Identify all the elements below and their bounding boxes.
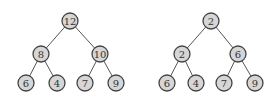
node-label: 4 <box>193 78 199 89</box>
tree-node: 7 <box>77 75 93 91</box>
node-label: 2 <box>208 16 214 27</box>
tree-node: 8 <box>33 46 49 62</box>
node-label: 9 <box>113 78 119 89</box>
tree-node: 2 <box>203 13 219 29</box>
node-label: 8 <box>38 49 44 60</box>
node-label: 2 <box>179 49 185 60</box>
tree-node: 12 <box>62 13 78 29</box>
node-label: 10 <box>94 49 107 60</box>
left-tree: 128106479 <box>18 13 124 91</box>
binary-trees-diagram: 1281064792266479 <box>0 0 276 103</box>
tree-node: 2 <box>174 46 190 62</box>
tree-node: 10 <box>92 46 108 62</box>
tree-node: 7 <box>216 75 232 91</box>
node-label: 9 <box>252 78 258 89</box>
tree-node: 4 <box>188 75 204 91</box>
node-label: 12 <box>64 16 77 27</box>
node-label: 6 <box>164 78 170 89</box>
tree-node: 6 <box>230 46 246 62</box>
tree-node: 9 <box>247 75 263 91</box>
tree-node: 9 <box>108 75 124 91</box>
edges-layer <box>26 21 255 83</box>
tree-node: 6 <box>18 75 34 91</box>
tree-node: 4 <box>49 75 65 91</box>
tree-node: 6 <box>159 75 175 91</box>
node-label: 7 <box>82 78 88 89</box>
nodes-layer: 1281064792266479 <box>18 13 263 91</box>
node-label: 6 <box>235 49 241 60</box>
node-label: 6 <box>23 78 29 89</box>
node-label: 7 <box>221 78 227 89</box>
node-label: 4 <box>54 78 60 89</box>
right-tree: 2266479 <box>159 13 263 91</box>
